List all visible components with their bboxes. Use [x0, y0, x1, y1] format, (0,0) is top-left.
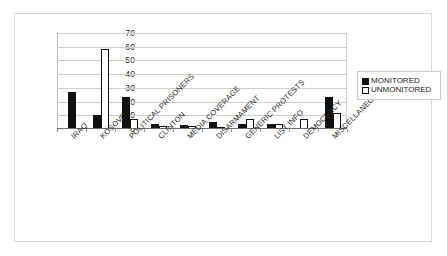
x-axis-tickmark [57, 129, 58, 132]
legend-label: UNMONITORED [371, 86, 431, 94]
filled-square-icon [362, 78, 369, 85]
hollow-square-icon [362, 87, 369, 94]
legend-item: UNMONITORED [362, 86, 437, 94]
bar-group [57, 33, 86, 129]
chart-legend: MONITOREDUNMONITORED [357, 71, 441, 100]
bar-group [86, 33, 115, 129]
bar-monitored [93, 115, 101, 129]
legend-item: MONITORED [362, 77, 437, 85]
legend-label: MONITORED [371, 77, 420, 85]
chart-frame: 706050403020100 IRAQKOSOVOPOLITICAL PRIS… [14, 13, 432, 242]
bar-unmonitored [101, 49, 109, 129]
bar-monitored [68, 92, 76, 129]
